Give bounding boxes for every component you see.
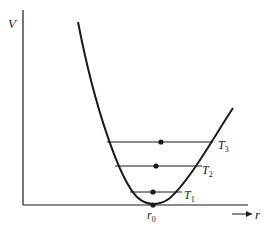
- label-t1: T1: [184, 188, 195, 204]
- y-axis-label: V: [8, 16, 18, 31]
- energy-level-t2: [115, 163, 202, 168]
- r0-label: r0: [147, 208, 156, 224]
- r-arrow-icon: [232, 211, 252, 217]
- label-t2: T2: [202, 163, 213, 179]
- label-t3: T3: [218, 138, 229, 154]
- x-axis-label: r: [255, 207, 261, 222]
- minimum-point: [150, 202, 155, 207]
- energy-level-t3: [107, 139, 213, 144]
- potential-well-diagram: V r T1 T2 T3 r0: [0, 0, 269, 230]
